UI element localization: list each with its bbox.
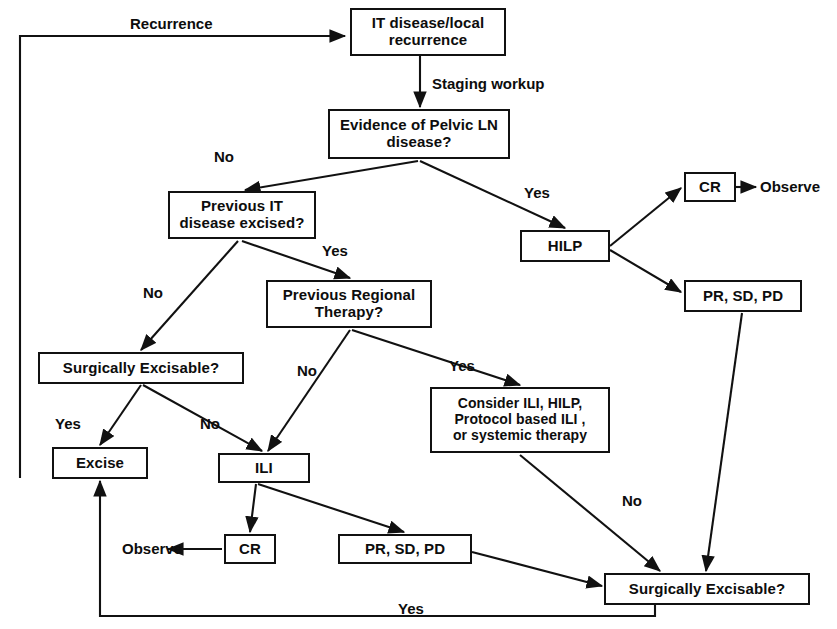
edge-label-yes_prev_regional: Yes (449, 357, 475, 374)
node-label-ili: ILI (251, 460, 277, 477)
edge-prev-regional-to-consider (352, 330, 520, 385)
node-surg_exc_bottom[interactable]: Surgically Excisable? (604, 573, 810, 605)
node-pr_sd_pd_bottom[interactable]: PR, SD, PD (338, 534, 472, 564)
node-excise[interactable]: Excise (52, 447, 148, 479)
node-pelvic_ln[interactable]: Evidence of Pelvic LNdisease? (328, 109, 510, 159)
node-label-hilp: HILP (544, 238, 587, 255)
node-label-surg_exc_mid: Surgically Excisable? (59, 360, 223, 377)
node-cr_bottom[interactable]: CR (224, 534, 276, 564)
edge-ili-to-cr-bottom (250, 484, 256, 532)
edge-label-no_pelvic: No (214, 148, 234, 165)
edge-label-yes_surg_mid: Yes (55, 415, 81, 432)
edge-label-staging_workup: Staging workup (432, 75, 545, 92)
node-hilp[interactable]: HILP (520, 230, 610, 262)
node-label-surg_exc_bottom: Surgically Excisable? (625, 581, 789, 598)
edge-prev-regional-to-ili (268, 330, 350, 451)
node-label-it_disease: IT disease/localrecurrence (368, 15, 489, 49)
edge-label-recurrence: Recurrence (130, 15, 213, 32)
node-ili[interactable]: ILI (218, 453, 310, 483)
node-label-pr_sd_pd_bottom: PR, SD, PD (361, 541, 449, 558)
node-cr_top[interactable]: CR (684, 172, 736, 202)
edge-label-no_consider: No (622, 492, 642, 509)
edge-recurrence-to-it-disease (20, 36, 345, 478)
node-label-cr_top: CR (695, 179, 725, 196)
edge-label-yes_pelvic: Yes (524, 184, 550, 201)
node-consider[interactable]: Consider ILI, HILP,Protocol based ILI ,o… (430, 387, 610, 453)
edge-label-no_surg_mid: No (200, 415, 220, 432)
node-label-prev_it: Previous ITdisease excised? (175, 198, 308, 232)
edge-pr-sd-pd-bottom-to-surg-bottom (472, 552, 602, 586)
node-prev_it[interactable]: Previous ITdisease excised? (168, 191, 316, 239)
edge-label-no_prev_regional: No (297, 362, 317, 379)
edge-label-no_prev_it: No (143, 284, 163, 301)
edge-label-yes_bottom_return: Yes (398, 600, 424, 617)
edge-hilp-to-pr-sd-pd (610, 250, 681, 292)
node-label-pelvic_ln: Evidence of Pelvic LNdisease? (336, 117, 502, 151)
label-observe_top: Observe (760, 178, 820, 195)
node-label-pr_sd_pd_top: PR, SD, PD (699, 288, 787, 305)
node-prev_regional[interactable]: Previous RegionalTherapy? (266, 280, 432, 328)
edge-pr-sd-pd-top-to-surg-bottom (706, 313, 742, 571)
node-label-cr_bottom: CR (235, 541, 265, 558)
edge-label-yes_prev_it: Yes (322, 242, 348, 259)
flowchart-canvas: IT disease/localrecurrenceEvidence of Pe… (0, 0, 837, 629)
label-observe_bottom: Observe (122, 540, 182, 557)
edge-pelvic-ln-to-prev-it (245, 161, 418, 190)
node-pr_sd_pd_top[interactable]: PR, SD, PD (684, 280, 802, 312)
node-label-prev_regional: Previous RegionalTherapy? (279, 287, 420, 321)
edge-consider-to-surg-bottom (520, 455, 660, 571)
node-it_disease[interactable]: IT disease/localrecurrence (350, 8, 506, 56)
edge-ili-to-pr-sd-pd-bottom (258, 484, 404, 532)
node-label-excise: Excise (72, 455, 128, 472)
edge-surg-exc-mid-to-excise (100, 385, 141, 445)
node-surg_exc_mid[interactable]: Surgically Excisable? (38, 352, 244, 384)
edge-hilp-to-cr (610, 188, 681, 246)
node-label-consider: Consider ILI, HILP,Protocol based ILI ,o… (449, 396, 591, 443)
